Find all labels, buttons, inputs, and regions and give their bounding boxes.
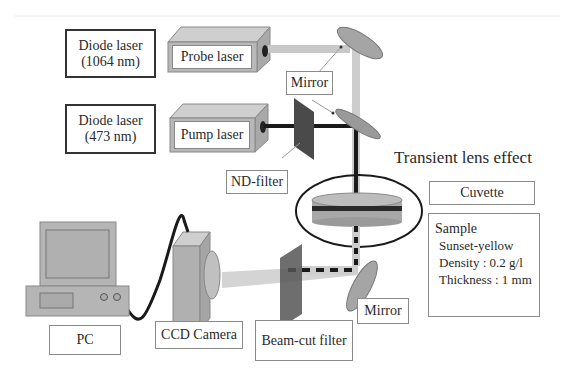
- nd-filter-plate: [294, 98, 314, 160]
- mirror-top-label: Mirror: [286, 71, 333, 95]
- beam-cut-filter-text: Beam-cut filter: [261, 333, 346, 349]
- cuvette-label: Cuvette: [429, 181, 535, 205]
- diode-laser-1064-line1: Diode laser: [78, 38, 142, 54]
- probe-laser-text: Probe laser: [181, 49, 244, 65]
- diode-laser-1064-line2: (1064 nm): [81, 54, 140, 70]
- sample-thickness: Thickness : 1 mm: [435, 271, 533, 288]
- sample-name: Sunset-yellow: [435, 237, 533, 254]
- diode-laser-473-label: Diode laser (473 nm): [65, 104, 156, 154]
- pump-laser-text: Pump laser: [181, 127, 244, 143]
- sample-heading: Sample: [435, 220, 533, 237]
- diode-laser-473-line1: Diode laser: [78, 113, 142, 129]
- nd-filter-label: ND-filter: [226, 170, 288, 194]
- cuvette-device: [312, 193, 402, 227]
- pc-label: PC: [49, 325, 121, 355]
- diode-laser-473-line2: (473 nm): [85, 129, 137, 145]
- probe-beam: [268, 45, 350, 53]
- pc-text: PC: [76, 332, 93, 348]
- probe-laser-label: Probe laser: [172, 45, 252, 69]
- ccd-camera-label: CCD Camera: [155, 321, 243, 349]
- sample-density: Density : 0.2 g/l: [435, 254, 533, 271]
- transient-lens-title: Transient lens effect: [394, 148, 532, 168]
- probe-aperture-icon: [262, 45, 268, 57]
- beam-cut-filter-plate: [280, 244, 302, 328]
- pc-device: [26, 222, 129, 316]
- diode-laser-1064-label: Diode laser (1064 nm): [65, 29, 156, 78]
- ccd-camera-device: [173, 232, 220, 331]
- pump-laser-label: Pump laser: [174, 121, 250, 149]
- cuvette-text: Cuvette: [460, 185, 504, 201]
- ccd-camera-text: CCD Camera: [161, 327, 237, 343]
- mirror-top-text: Mirror: [291, 75, 328, 91]
- sample-info-box: Sample Sunset-yellow Density : 0.2 g/l T…: [428, 213, 540, 317]
- mirror-bottom-text: Mirror: [364, 303, 401, 319]
- nd-filter-text: ND-filter: [231, 174, 283, 190]
- mirror-bottom-label: Mirror: [357, 298, 409, 324]
- beam-cut-filter-label: Beam-cut filter: [255, 320, 353, 361]
